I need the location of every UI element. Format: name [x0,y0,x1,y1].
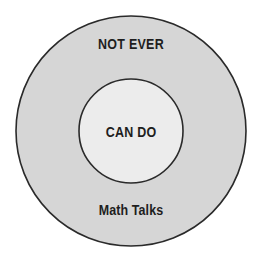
outer-circle-label: NOT EVER [18,37,243,52]
diagram-caption: Math Talks [18,203,243,218]
concentric-circle-diagram: NOT EVER CAN DO Math Talks [0,0,260,262]
inner-circle-label: CAN DO [18,125,243,140]
